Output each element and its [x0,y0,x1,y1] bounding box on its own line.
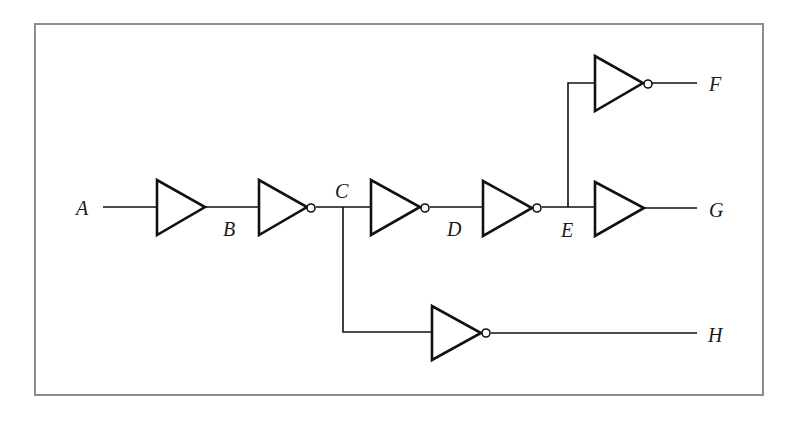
inverter-bubble-2 [307,204,315,212]
label-h: H [707,324,724,346]
buffer-gate-1 [157,180,205,235]
inverter-bubble-4 [533,204,541,212]
inverter-bubble-7 [482,329,490,337]
label-a: A [74,197,89,219]
label-e: E [560,219,573,241]
wire-e-to-f [568,83,595,207]
label-d: D [446,218,462,240]
inverter-gate-4 [483,181,532,236]
inverter-gate-5 [595,56,643,111]
inverter-bubble-3 [421,204,429,212]
inverter-gate-3 [371,180,420,235]
label-c: C [335,180,349,202]
buffer-gate-6 [595,182,644,236]
label-g: G [709,199,724,221]
label-f: F [708,73,722,95]
label-b: B [223,218,235,240]
logic-circuit: A B C D E F G H [0,0,806,422]
inverter-gate-7 [432,306,481,360]
inverter-gate-2 [259,180,307,235]
inverter-bubble-5 [644,80,652,88]
